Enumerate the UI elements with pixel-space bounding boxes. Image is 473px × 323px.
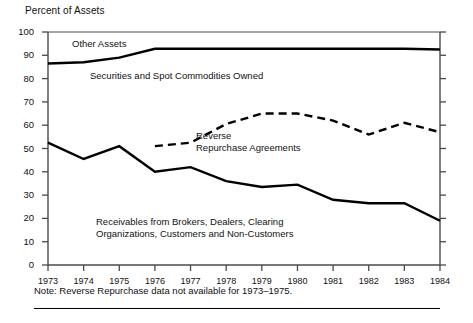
x-axis-tick-label: 1982 xyxy=(349,276,389,286)
y-axis-tick-label: 90 xyxy=(12,50,34,60)
y-axis-tick-label: 10 xyxy=(12,237,34,247)
chart-figure: Percent of Assets 1009080706050403020100… xyxy=(0,0,473,323)
y-axis-ticks-right xyxy=(440,32,446,265)
x-axis-tick-label: 1983 xyxy=(384,276,424,286)
y-axis-tick-label: 30 xyxy=(12,190,34,200)
y-axis-tick-label: 20 xyxy=(12,213,34,223)
y-axis-tick-label: 50 xyxy=(12,144,34,154)
series-label-securities: Securities and Spot Commodities Owned xyxy=(90,70,263,82)
y-axis-tick-label: 80 xyxy=(12,74,34,84)
series-label-receivables-line1: Receivables from Brokers, Dealers, Clear… xyxy=(96,216,283,228)
series-label-other-assets: Other Assets xyxy=(72,38,126,50)
series-label-receivables-line2: Organizations, Customers and Non-Custome… xyxy=(96,228,293,240)
bottom-rule xyxy=(34,308,440,309)
y-axis-tick-label: 100 xyxy=(12,27,34,37)
y-axis-tick-label: 70 xyxy=(12,97,34,107)
y-axis-tick-label: 60 xyxy=(12,120,34,130)
y-axis-tick-label: 40 xyxy=(12,167,34,177)
chart-series-line-0 xyxy=(48,49,440,64)
series-label-reverse-repurchase-line2: Repurchase Agreements xyxy=(196,142,301,154)
y-axis-tick-label: 0 xyxy=(12,260,34,270)
chart-plot-area xyxy=(0,0,473,323)
chart-series-line-2 xyxy=(48,143,440,221)
x-axis-tick-label: 1981 xyxy=(313,276,353,286)
y-axis-ticks-left xyxy=(42,32,48,265)
series-label-reverse-repurchase-line1: Reverse xyxy=(196,130,231,142)
x-axis-ticks xyxy=(48,265,440,271)
x-axis-tick-label: 1984 xyxy=(420,276,460,286)
chart-note: Note: Reverse Repurchase data not availa… xyxy=(34,285,292,296)
